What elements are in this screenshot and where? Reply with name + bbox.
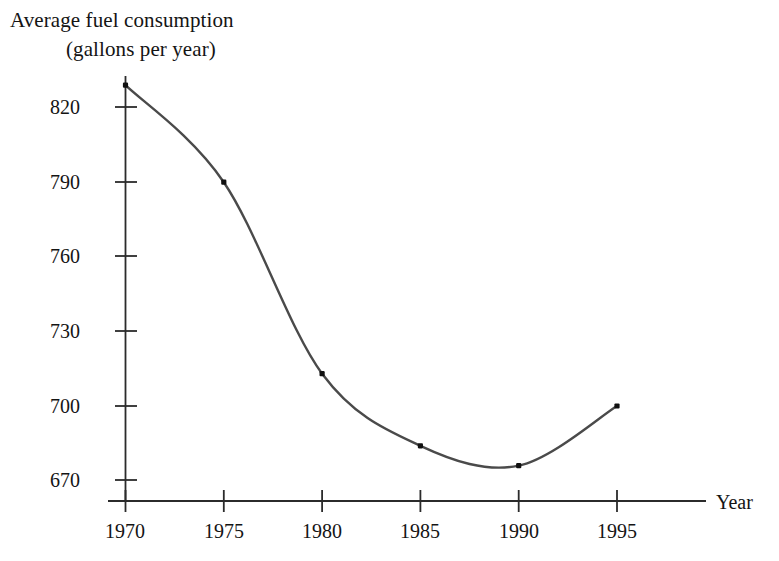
data-point-markers [123,83,620,469]
y-axis-label-790: 790 [20,172,80,192]
data-point-1975 [221,180,226,185]
data-point-1980 [320,371,325,376]
y-axis-label-670: 670 [20,470,80,490]
y-axis-label-760: 760 [20,246,80,266]
x-axis-label-1980: 1980 [282,521,362,541]
data-curve [126,85,618,467]
x-axis-label-1985: 1985 [380,521,460,541]
y-axis-label-820: 820 [20,97,80,117]
fuel-consumption-chart: Average fuel consumption (gallons per ye… [0,0,779,561]
y-axis-label-700: 700 [20,396,80,416]
plot-area [0,0,779,561]
data-point-1990 [516,463,521,468]
x-axis-label-1995: 1995 [577,521,657,541]
x-axis-label-1970: 1970 [85,521,165,541]
y-axis-label-730: 730 [20,321,80,341]
data-point-1985 [418,443,423,448]
data-point-1995 [614,403,619,408]
x-axis-label-1975: 1975 [184,521,264,541]
x-axis-title: Year [716,492,753,512]
data-point-1970 [123,83,128,88]
x-axis-label-1990: 1990 [479,521,559,541]
